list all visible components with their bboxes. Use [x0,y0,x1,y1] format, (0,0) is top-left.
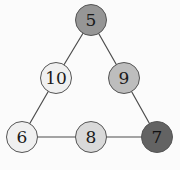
graph-canvas: 5109687 [0,0,180,170]
graph-node[interactable]: 9 [108,62,140,94]
graph-node-label: 10 [45,69,67,86]
graph-node[interactable]: 5 [75,4,107,36]
graph-node[interactable]: 8 [75,121,107,153]
graph-node-label: 5 [86,11,97,28]
graph-node[interactable]: 10 [40,62,72,94]
graph-node-label: 7 [152,128,163,145]
graph-node[interactable]: 6 [6,121,38,153]
graph-node[interactable]: 7 [141,121,173,153]
graph-node-label: 9 [119,69,130,86]
graph-node-label: 8 [86,128,97,145]
graph-node-label: 6 [17,128,28,145]
